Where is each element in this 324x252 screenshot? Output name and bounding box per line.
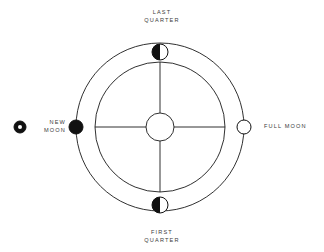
marker-full-moon xyxy=(237,120,251,134)
label-last-quarter: LAST QUARTER xyxy=(0,8,324,25)
last-quarter-shadow-half xyxy=(152,44,160,60)
label-first-quarter: FIRST QUARTER xyxy=(0,228,324,245)
marker-new-moon xyxy=(69,120,83,134)
label-new-moon: NEW MOON xyxy=(0,118,66,135)
earth-core-circle xyxy=(146,113,174,141)
moon-phase-diagram: LAST QUARTER FIRST QUARTER NEW MOON FULL… xyxy=(0,0,324,252)
label-full-moon: FULL MOON xyxy=(264,122,324,130)
marker-last-quarter xyxy=(152,44,168,60)
marker-first-quarter xyxy=(152,197,168,213)
